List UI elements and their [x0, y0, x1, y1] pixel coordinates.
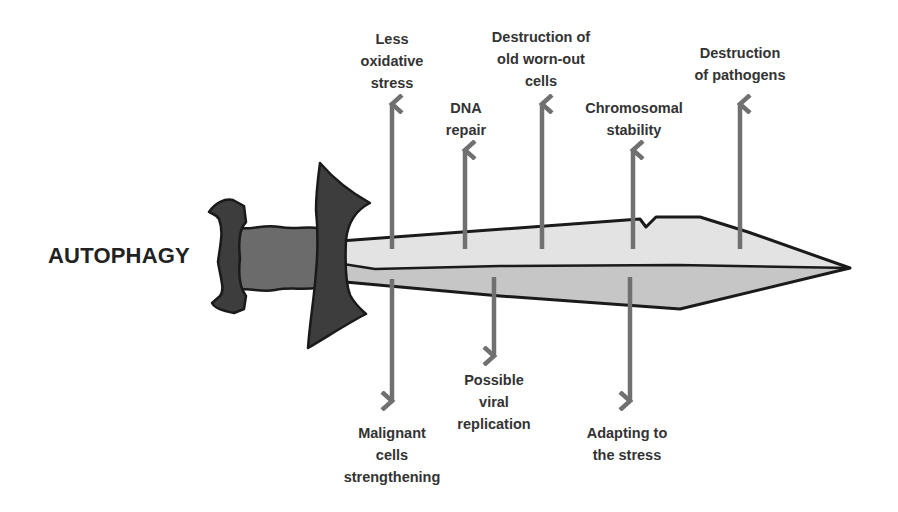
- label-destruction-old-cells: Destruction of old worn-out cells: [492, 26, 590, 92]
- label-malignant-cells: Malignant cells strengthening: [344, 422, 441, 488]
- label-viral-replication: Possible viral replication: [457, 369, 530, 435]
- label-adapting-stress: Adapting to the stress: [587, 422, 668, 466]
- sword-grip: [238, 226, 318, 291]
- label-less-oxidative-stress: Less oxidative stress: [361, 28, 424, 94]
- sword-blade: [340, 217, 850, 309]
- sword-pommel: [209, 200, 246, 313]
- label-chromosomal-stability: Chromosomal stability: [585, 97, 683, 141]
- label-dna-repair: DNA repair: [446, 97, 486, 141]
- diagram-title: AUTOPHAGY: [48, 243, 190, 269]
- blade-upper-half: [340, 217, 850, 269]
- label-destruction-pathogens: Destruction of pathogens: [694, 42, 785, 86]
